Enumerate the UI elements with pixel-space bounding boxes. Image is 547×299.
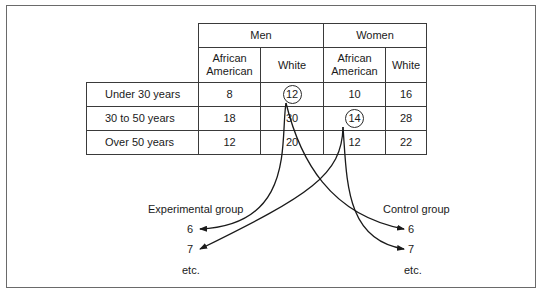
arrow-12-to-control-6 — [286, 103, 404, 229]
assignment-arrows — [0, 0, 547, 299]
arrow-14-to-control-7 — [343, 127, 404, 249]
arrow-14-to-experimental-7 — [200, 127, 343, 249]
arrow-12-to-experimental-6 — [200, 103, 286, 229]
